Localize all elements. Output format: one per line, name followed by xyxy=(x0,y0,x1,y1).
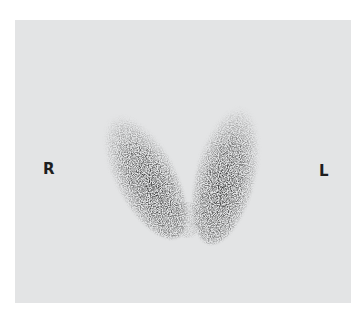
scintigram-frame xyxy=(15,20,351,303)
right-side-label: R xyxy=(43,162,55,177)
left-side-label: L xyxy=(319,164,329,179)
thyroid-scan-image xyxy=(15,20,351,303)
